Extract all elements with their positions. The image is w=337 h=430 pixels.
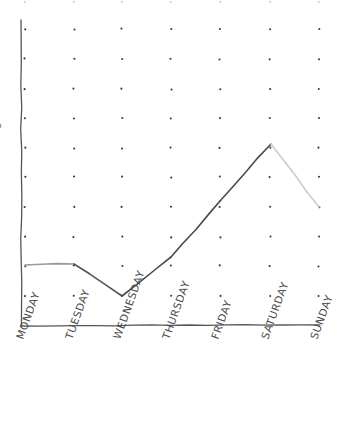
grid-dot xyxy=(73,147,75,149)
data-series-line xyxy=(25,144,319,296)
line-chart-plot: MONDAYTUESDAYWEDNESDAYTHURSDAYFRIDAYSATU… xyxy=(0,0,337,430)
grid-dot xyxy=(170,177,172,179)
grid-dot xyxy=(170,89,172,91)
series-segment-thursday-to-friday xyxy=(171,201,220,257)
grid-dot xyxy=(318,295,320,297)
grid-dot xyxy=(269,88,271,90)
grid-dot-faint xyxy=(170,1,172,3)
series-segment-saturday-to-sunday xyxy=(271,144,319,207)
chart-container: MONDAYTUESDAYWEDNESDAYTHURSDAYFRIDAYSATU… xyxy=(0,0,337,430)
grid-dot xyxy=(269,176,271,178)
grid-dot xyxy=(318,235,320,237)
grid-dot xyxy=(120,88,122,90)
grid-dot xyxy=(73,295,75,297)
grid-dot xyxy=(24,88,26,90)
grid-dot xyxy=(121,236,123,238)
grid-dot xyxy=(24,206,26,208)
grid-dot xyxy=(269,295,271,297)
series-segment-friday-to-saturday xyxy=(220,144,271,201)
grid-dot xyxy=(24,28,26,30)
grid-dot xyxy=(121,176,123,178)
grid-dot-faint xyxy=(219,1,221,3)
grid-dot xyxy=(24,176,26,178)
grid-dot xyxy=(269,58,271,60)
grid-dot xyxy=(170,295,172,297)
grid-dot-faint xyxy=(318,1,320,3)
x-tick-label-tuesday: TUESDAY xyxy=(62,287,91,341)
x-tick-label-wednesday: WEDNESDAY xyxy=(111,269,147,341)
grid-dot xyxy=(73,176,75,178)
grid-dot xyxy=(269,265,271,267)
grid-dot xyxy=(219,28,221,30)
grid-dot xyxy=(218,147,220,149)
grid-dot xyxy=(121,147,123,149)
grid-dot xyxy=(73,117,75,119)
grid-dot xyxy=(73,206,75,208)
grid-dot xyxy=(170,206,172,208)
x-tick-label-sunday: SUNDAY xyxy=(308,293,335,341)
grid-dot xyxy=(24,147,26,149)
grid-dot xyxy=(318,28,320,30)
grid-dot xyxy=(219,206,221,208)
x-tick-label-monday: MONDAY xyxy=(14,290,42,341)
grid-dot xyxy=(269,28,271,30)
grid-dot xyxy=(170,236,172,238)
x-tick-label-thursday: THURSDAY xyxy=(159,279,192,342)
x-tick-label-saturday: SATURDAY xyxy=(259,280,291,341)
grid-dot xyxy=(219,176,221,178)
grid-dot xyxy=(170,118,172,120)
grid-dot xyxy=(317,265,319,267)
grid-dot xyxy=(169,58,171,60)
chart-axes xyxy=(21,20,320,326)
grid-dot xyxy=(269,206,271,208)
grid-dot xyxy=(219,117,221,119)
grid-dot xyxy=(170,265,172,267)
grid-dot xyxy=(170,28,172,30)
grid-dot xyxy=(121,58,123,60)
grid-dot xyxy=(219,236,221,238)
grid-dot xyxy=(318,88,320,90)
grid-dot xyxy=(169,147,171,149)
grid-dot-faint xyxy=(121,1,123,3)
grid-dot xyxy=(72,236,74,238)
grid-dot xyxy=(23,57,25,59)
grid-dot xyxy=(24,236,26,238)
grid-dot xyxy=(269,117,271,119)
grid-dot xyxy=(73,28,75,30)
grid-dot xyxy=(24,117,26,119)
grid-dot-faint xyxy=(24,1,26,3)
grid-dot xyxy=(219,264,221,266)
grid-dot xyxy=(219,295,221,297)
grid-dot xyxy=(121,117,123,119)
grid-dot xyxy=(24,295,26,297)
grid-dot xyxy=(121,206,123,208)
grid-dot-faint xyxy=(73,1,75,3)
grid-dot xyxy=(318,117,320,119)
x-axis-tick-labels: MONDAYTUESDAYWEDNESDAYTHURSDAYFRIDAYSATU… xyxy=(14,269,335,342)
grid-dot xyxy=(120,28,122,30)
y-axis-line xyxy=(21,20,22,326)
grid-dot-faint xyxy=(269,1,271,3)
x-tick-label-friday: FRIDAY xyxy=(209,298,234,340)
series-segment-monday-to-tuesday xyxy=(25,264,74,265)
grid-dot xyxy=(318,58,320,60)
grid-dot xyxy=(73,58,75,60)
grid-dot xyxy=(121,265,123,267)
grid-dot xyxy=(219,88,221,90)
grid-dot xyxy=(269,147,271,149)
y-axis-label-text: g xyxy=(0,122,1,129)
y-axis-label-clipped: g xyxy=(0,122,1,129)
grid-dot xyxy=(318,176,320,178)
grid-dot xyxy=(269,236,271,238)
grid-dot xyxy=(317,147,319,149)
grid-dot xyxy=(72,88,74,90)
grid-dot xyxy=(218,58,220,60)
